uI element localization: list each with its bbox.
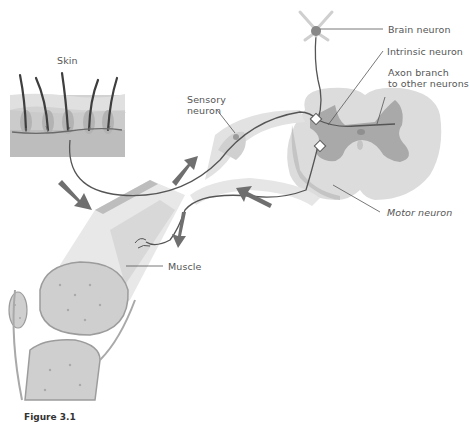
skin-illustration: [10, 73, 126, 157]
leg-illustration: [9, 180, 185, 400]
arrow-up-to-cord: [172, 156, 198, 186]
intrinsic-neuron-label: Intrinsic neuron: [387, 46, 463, 57]
axon-branch-label-line2: to other neurons: [388, 78, 469, 89]
motor-neuron-label: Motor neuron: [387, 207, 452, 218]
axon-branch-label-line1: Axon branch: [388, 67, 449, 78]
sensory-neuron-label-line1: Sensory: [187, 94, 226, 105]
sensory-neuron-label-line2: neuron: [187, 105, 221, 116]
spinal-cord-illustration: [287, 88, 441, 200]
brain-neuron-label: Brain neuron: [388, 24, 451, 35]
brain-neuron-cell: [300, 12, 332, 40]
arrow-down-to-muscle: [172, 212, 186, 248]
skin-label: Skin: [57, 55, 78, 66]
figure-caption: Figure 3.1: [24, 412, 76, 422]
muscle-label: Muscle: [168, 261, 201, 272]
